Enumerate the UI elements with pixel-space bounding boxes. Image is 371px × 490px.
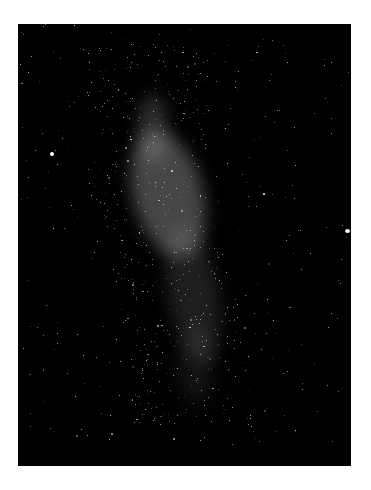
bright-star: [345, 229, 350, 233]
galactic-band-tail: [178, 324, 213, 404]
bright-star: [50, 152, 54, 156]
milky-way-photo: [18, 24, 351, 466]
